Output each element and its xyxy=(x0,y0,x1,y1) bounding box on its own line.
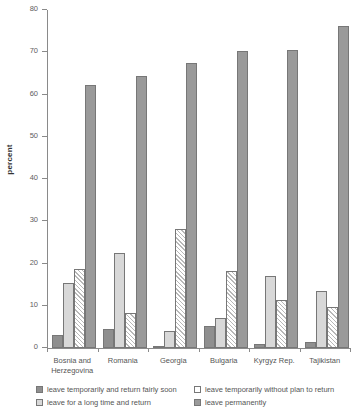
y-tick-label: 80 xyxy=(30,4,38,13)
bar xyxy=(316,291,327,348)
legend-swatch-icon xyxy=(194,399,201,406)
y-tick-label: 70 xyxy=(30,46,38,55)
legend-label: leave temporarily and return fairly soon xyxy=(47,385,177,394)
bar xyxy=(175,229,186,348)
bar xyxy=(226,271,237,348)
bar xyxy=(125,313,136,348)
bar xyxy=(153,346,164,348)
bar xyxy=(276,300,287,348)
legend-item[interactable]: leave permanently xyxy=(194,398,352,407)
y-tick-label: 60 xyxy=(30,89,38,98)
y-tick: 40 xyxy=(42,178,47,179)
bar xyxy=(103,329,114,348)
x-tick xyxy=(148,348,149,352)
bar xyxy=(237,51,248,348)
plot-area: 01020304050607080 Bosnia andHerzegovinaR… xyxy=(47,10,350,348)
x-tick xyxy=(249,348,250,352)
x-axis-label: Tajikistan xyxy=(290,356,354,366)
legend-item[interactable]: leave temporarily without plan to return xyxy=(194,385,352,394)
y-tick: 50 xyxy=(42,136,47,137)
y-tick-label: 10 xyxy=(30,300,38,309)
bar xyxy=(338,26,349,348)
bar-group xyxy=(204,10,248,348)
bar-group xyxy=(52,10,96,348)
legend-swatch-icon xyxy=(36,399,43,406)
y-tick: 10 xyxy=(42,305,47,306)
bar xyxy=(327,307,338,348)
y-axis-title: percent xyxy=(5,125,14,195)
y-tick-label: 0 xyxy=(34,342,38,351)
legend-label: leave permanently xyxy=(205,398,266,407)
bar xyxy=(52,335,63,348)
y-tick-label: 20 xyxy=(30,258,38,267)
bar-group xyxy=(254,10,298,348)
bar-group xyxy=(103,10,147,348)
bar xyxy=(136,76,147,349)
bar-chart: percent 01020304050607080 Bosnia andHerz… xyxy=(0,0,354,415)
y-tick: 70 xyxy=(42,51,47,52)
y-tick-label: 50 xyxy=(30,131,38,140)
bar xyxy=(215,318,226,348)
x-tick xyxy=(98,348,99,352)
legend-item[interactable]: leave temporarily and return fairly soon xyxy=(36,385,194,394)
x-tick xyxy=(350,348,351,352)
bar xyxy=(85,85,96,348)
y-tick: 60 xyxy=(42,94,47,95)
x-tick xyxy=(47,348,48,352)
x-tick xyxy=(199,348,200,352)
y-tick: 80 xyxy=(42,9,47,10)
y-tick: 20 xyxy=(42,263,47,264)
legend-label: leave temporarily without plan to return xyxy=(205,385,334,394)
bar xyxy=(74,269,85,348)
bar xyxy=(63,283,74,348)
bar xyxy=(186,63,197,348)
bar xyxy=(114,253,125,348)
bar xyxy=(305,342,316,348)
y-tick: 30 xyxy=(42,220,47,221)
legend-label: leave for a long time and return xyxy=(47,398,151,407)
bar-group xyxy=(153,10,197,348)
legend-swatch-icon xyxy=(194,386,201,393)
x-tick xyxy=(300,348,301,352)
bar xyxy=(204,326,215,348)
bar xyxy=(254,344,265,348)
bar xyxy=(265,276,276,348)
y-tick-label: 30 xyxy=(30,215,38,224)
bar xyxy=(287,50,298,348)
bar-group xyxy=(305,10,349,348)
bar xyxy=(164,331,175,348)
legend-swatch-icon xyxy=(36,386,43,393)
chart-legend: leave temporarily and return fairly soon… xyxy=(36,383,346,409)
y-tick-label: 40 xyxy=(30,173,38,182)
y-axis-line xyxy=(47,10,48,348)
legend-item[interactable]: leave for a long time and return xyxy=(36,398,194,407)
